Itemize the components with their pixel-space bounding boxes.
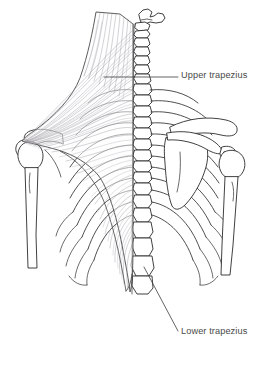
vertebra-t4 <box>133 117 152 128</box>
rib-right-2 <box>151 101 207 119</box>
vertebra-t2 <box>133 95 152 106</box>
rib-left-tip-4 <box>60 225 77 252</box>
rib-right-12 <box>152 215 193 260</box>
vertebra-t11 <box>133 195 152 208</box>
leader-line-lower-trapezius <box>144 267 178 331</box>
vertebra-t7 <box>133 150 152 161</box>
vertebra-t5 <box>133 128 152 139</box>
atlas-vertebra <box>135 22 150 31</box>
vertebra-t6 <box>133 139 152 150</box>
rib-left-tip-5 <box>56 212 73 236</box>
rib-left-edge <box>69 276 87 285</box>
rib-right-tip-1 <box>193 260 200 285</box>
shoulder-girdle-left <box>16 129 63 268</box>
skull-base-group <box>134 9 165 38</box>
vertebra-l1 <box>132 222 153 238</box>
rib-right-edge <box>200 276 218 285</box>
vertebra-t8 <box>133 161 152 172</box>
vertebra-c3 <box>134 38 150 47</box>
vertebra-t3 <box>133 106 152 117</box>
vertebra-t12 <box>133 208 152 222</box>
vertebra-c5 <box>134 56 150 65</box>
vertebra-l2 <box>132 238 153 256</box>
humeral-head-left <box>18 142 43 170</box>
humeral-head-right <box>219 150 245 179</box>
vertebra-c4 <box>134 47 150 56</box>
vertebra-c7 <box>134 74 151 84</box>
anatomy-illustration <box>0 0 271 365</box>
vertebra-l3 <box>131 256 154 276</box>
vertebra-t1 <box>133 84 152 95</box>
rib-left-tip-2 <box>75 249 88 278</box>
scapula-left-edge <box>45 150 61 177</box>
vertebra-c6 <box>134 65 150 74</box>
label-upper-trapezius: Upper trapezius <box>181 71 247 80</box>
humerus-left <box>25 168 38 268</box>
anatomy-figure: Upper trapezius Lower trapezius <box>0 0 271 365</box>
rib-right-tip-2 <box>200 249 213 278</box>
occiput-bone <box>139 9 165 24</box>
humerus-right <box>221 177 238 275</box>
spinal-column-group <box>131 24 154 294</box>
vertebra-t9 <box>133 172 152 183</box>
rib-left-tip-1 <box>87 260 94 285</box>
label-lower-trapezius: Lower trapezius <box>181 327 247 336</box>
vertebra-t10 <box>133 183 152 195</box>
axis-vertebra <box>134 30 150 38</box>
